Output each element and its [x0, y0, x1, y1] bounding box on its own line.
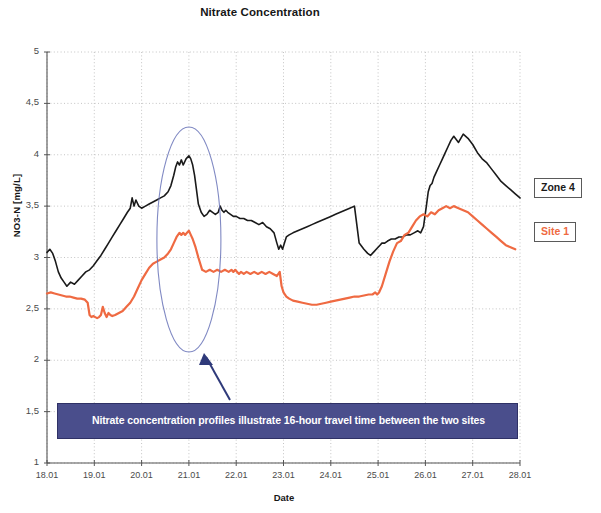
- y-tick-label: 3: [13, 251, 39, 262]
- x-tick-label: 26.01: [402, 470, 448, 480]
- chart-title: Nitrate Concentration: [0, 6, 520, 18]
- y-tick-label: 1: [13, 456, 39, 467]
- y-tick-label: 1,5: [13, 405, 39, 416]
- x-tick-label: 25.01: [355, 470, 401, 480]
- x-tick-label: 28.01: [497, 470, 543, 480]
- annotation-callout-box: Nitrate concentration profiles illustrat…: [57, 403, 518, 439]
- y-tick-label: 2: [13, 353, 39, 364]
- y-tick-label: 2,5: [13, 302, 39, 313]
- x-tick-label: 21.01: [166, 470, 212, 480]
- y-tick-label: 4,5: [13, 96, 39, 107]
- x-tick-label: 22.01: [213, 470, 259, 480]
- x-tick-label: 24.01: [308, 470, 354, 480]
- x-tick-label: 27.01: [450, 470, 496, 480]
- legend-item-site-1[interactable]: Site 1: [534, 222, 576, 242]
- annotation-callout-text: Nitrate concentration profiles illustrat…: [58, 414, 519, 426]
- y-tick-label: 5: [13, 45, 39, 56]
- series-line-site-1: [47, 206, 515, 318]
- x-tick-label: 19.01: [71, 470, 117, 480]
- chart-figure: Nitrate Concentration NO3-N [mg/L] Date …: [0, 0, 601, 513]
- legend-item-zone-4[interactable]: Zone 4: [534, 178, 582, 198]
- x-tick-label: 18.01: [24, 470, 70, 480]
- x-tick-label: 23.01: [261, 470, 307, 480]
- y-tick-label: 4: [13, 148, 39, 159]
- annotation-arrow-head: [199, 353, 213, 365]
- y-tick-label: 3,5: [13, 199, 39, 210]
- gridlines: [47, 52, 520, 463]
- x-axis-label: Date: [47, 492, 521, 503]
- x-tick-label: 20.01: [119, 470, 165, 480]
